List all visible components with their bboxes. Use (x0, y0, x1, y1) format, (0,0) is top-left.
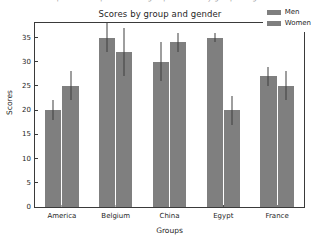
y-axis-label: Scores (5, 90, 14, 115)
error-bar-china-women (178, 33, 179, 52)
legend-swatch-women (267, 21, 281, 26)
legend-swatch-men (267, 10, 281, 15)
y-axis-tick: 10 (22, 155, 35, 163)
y-axis-tick: 35 (22, 34, 35, 42)
bar-belgium-men (99, 38, 115, 207)
bar-france-men (260, 76, 276, 207)
figure-canvas: matplotlib example bar chart grouped sco… (0, 0, 320, 240)
error-bar-belgium-women (124, 28, 125, 76)
y-tick-mark (35, 182, 38, 183)
y-tick-mark (35, 37, 38, 38)
y-tick-mark (35, 110, 38, 111)
x-axis-tick: America (47, 207, 76, 220)
error-bar-america-women (70, 71, 71, 100)
y-axis-tick: 20 (22, 106, 35, 114)
bar-egypt-women (224, 110, 240, 207)
y-tick-mark (35, 61, 38, 62)
legend-item-men: Men (267, 7, 311, 18)
y-tick-mark (35, 134, 38, 135)
y-axis-tick: 0 (27, 203, 35, 211)
bar-america-women (62, 86, 78, 207)
bar-america-men (45, 110, 61, 207)
plot-frame: 05101520253035AmericaBelgiumChinaEgyptFr… (34, 22, 305, 208)
y-tick-mark (35, 85, 38, 86)
error-bar-egypt-women (231, 96, 232, 125)
error-bar-china-men (160, 42, 161, 81)
legend-item-women: Women (267, 18, 311, 29)
error-bar-belgium-men (107, 23, 108, 52)
error-bar-france-women (285, 71, 286, 100)
y-axis-tick: 15 (22, 130, 35, 138)
error-bar-france-men (268, 67, 269, 86)
legend: Men Women (263, 4, 316, 32)
error-bar-america-men (53, 100, 54, 119)
y-tick-mark (35, 158, 38, 159)
x-axis-tick: France (265, 207, 288, 220)
bar-egypt-men (207, 38, 223, 207)
plot-area: 05101520253035AmericaBelgiumChinaEgyptFr… (35, 23, 304, 207)
y-tick-mark (35, 207, 38, 208)
bar-france-women (278, 86, 294, 207)
y-axis-tick: 25 (22, 82, 35, 90)
y-axis-tick: 30 (22, 58, 35, 66)
y-axis-tick: 5 (27, 179, 35, 187)
legend-label-women: Women (285, 18, 311, 29)
x-axis-tick: Belgium (101, 207, 130, 220)
error-bar-egypt-men (214, 33, 215, 43)
bar-china-women (170, 42, 186, 207)
legend-label-men: Men (285, 7, 300, 18)
bar-china-men (153, 62, 169, 207)
x-axis-label: Groups (34, 226, 305, 235)
x-axis-tick: China (160, 207, 180, 220)
x-axis-tick: Egypt (213, 207, 233, 220)
